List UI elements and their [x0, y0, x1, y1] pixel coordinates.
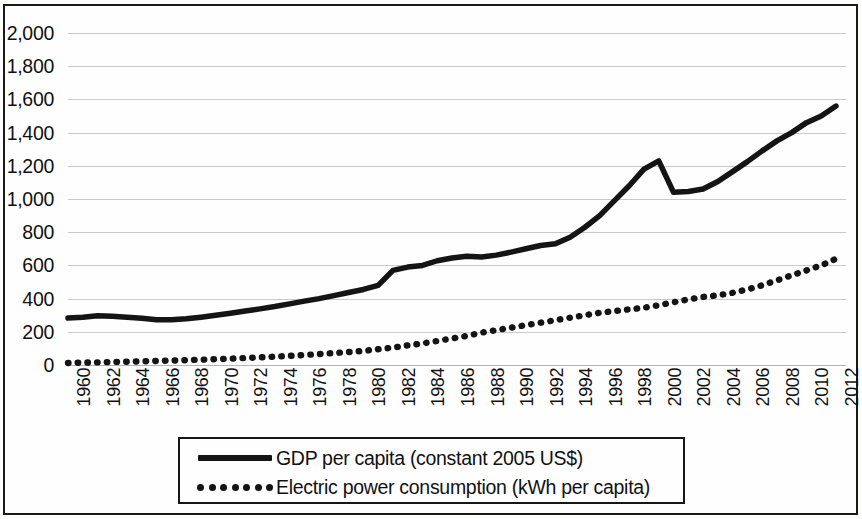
x-axis-tick-label: 1996 — [607, 368, 625, 406]
series-line-gdp — [68, 106, 836, 320]
y-axis-tick-label: 1,600 — [7, 88, 54, 111]
y-axis-tick-label: 200 — [22, 320, 54, 343]
x-axis-tick-label: 1988 — [489, 368, 507, 406]
x-axis-tick-label: 1994 — [577, 368, 595, 406]
y-axis-tick-label: 0 — [43, 354, 54, 377]
y-axis-tick-label: 1,400 — [7, 121, 54, 144]
legend-dot — [266, 484, 273, 491]
x-axis-tick-label: 1964 — [134, 368, 152, 406]
x-axis-tick-label: 1970 — [223, 368, 241, 406]
x-axis-tick-label: 1992 — [548, 368, 566, 406]
plot-area — [68, 33, 846, 365]
x-axis-tick-label: 1974 — [282, 368, 300, 406]
legend-dot — [243, 484, 250, 491]
x-axis-tick-label: 1984 — [429, 368, 447, 406]
y-axis-tick-label: 1,800 — [7, 55, 54, 78]
x-axis-tick-label: 1990 — [518, 368, 536, 406]
x-axis-tick-label: 1966 — [164, 368, 182, 406]
x-axis-tick-label: 1960 — [75, 368, 93, 406]
y-axis-tick-label: 1,200 — [7, 154, 54, 177]
chart-figure: 02004006008001,0001,2001,4001,6001,8002,… — [0, 0, 862, 519]
x-axis-tick-label: 1976 — [311, 368, 329, 406]
legend-label-gdp: GDP per capita (constant 2005 US$) — [276, 447, 583, 470]
y-axis-tick-label: 1,000 — [7, 188, 54, 211]
data-series-layer — [68, 33, 846, 365]
legend-label-electric-power: Electric power consumption (kWh per capi… — [276, 476, 650, 499]
gridline — [68, 365, 846, 366]
legend-dot — [209, 484, 216, 491]
x-axis-tick-label: 1998 — [636, 368, 654, 406]
legend-swatch-dotted-icon — [196, 484, 274, 491]
y-axis-tick-label: 600 — [22, 254, 54, 277]
x-axis-tick-label: 1962 — [105, 368, 123, 406]
x-axis-tick-label: 1980 — [370, 368, 388, 406]
x-axis: 1960196219641966196819701972197419761978… — [68, 368, 846, 430]
legend-dot — [220, 484, 227, 491]
legend-item-gdp: GDP per capita (constant 2005 US$) — [180, 443, 683, 473]
x-axis-tick-label: 2000 — [666, 368, 684, 406]
y-axis-tick-label: 2,000 — [7, 22, 54, 45]
legend-dot — [232, 484, 239, 491]
x-axis-tick-label: 2008 — [784, 368, 802, 406]
x-axis-tick-label: 1968 — [193, 368, 211, 406]
x-axis-tick-label: 2010 — [813, 368, 831, 406]
x-axis-tick-label: 2012 — [843, 368, 861, 406]
y-axis-tick-label: 800 — [22, 221, 54, 244]
legend-swatch-solid-icon — [196, 455, 274, 461]
x-axis-tick-label: 2002 — [695, 368, 713, 406]
y-axis: 02004006008001,0001,2001,4001,6001,8002,… — [0, 33, 62, 365]
x-axis-tick-label: 1986 — [459, 368, 477, 406]
x-axis-tick-label: 1972 — [252, 368, 270, 406]
x-axis-tick-label: 2006 — [754, 368, 772, 406]
legend-item-electric-power: Electric power consumption (kWh per capi… — [180, 472, 683, 502]
y-axis-tick-label: 400 — [22, 287, 54, 310]
x-axis-tick-label: 2004 — [725, 368, 743, 406]
series-line-electric-power — [68, 259, 836, 363]
x-axis-tick-label: 1982 — [400, 368, 418, 406]
legend-dot — [255, 484, 262, 491]
legend-dot — [197, 484, 204, 491]
x-axis-tick-label: 1978 — [341, 368, 359, 406]
chart-legend: GDP per capita (constant 2005 US$) Elect… — [178, 437, 685, 504]
